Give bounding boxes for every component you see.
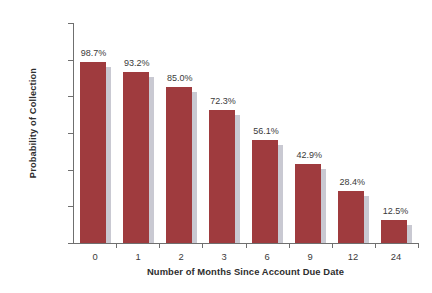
y-axis-tick <box>68 96 73 97</box>
y-axis-tick <box>68 206 73 207</box>
x-axis-tick <box>116 243 117 248</box>
bar-value-label: 28.4% <box>317 177 387 187</box>
bar-value-label: 56.1% <box>231 126 301 136</box>
plot-area: 0.0%20.0%40.0%60.0%80.0%100.0%120.0% 012… <box>73 23 418 243</box>
bar-value-label: 98.7% <box>59 48 129 58</box>
y-axis-tick <box>68 243 73 244</box>
x-axis-label: 9 <box>290 251 330 262</box>
x-axis-label: 24 <box>376 251 416 262</box>
x-axis-label: 12 <box>333 251 373 262</box>
bar-fill <box>80 62 106 243</box>
y-axis-title: Probability of Collection <box>28 28 38 218</box>
y-axis-tick <box>68 60 73 61</box>
x-axis-tick <box>202 243 203 248</box>
x-axis-label: 3 <box>204 251 244 262</box>
x-axis-tick <box>332 243 333 248</box>
bar <box>123 23 155 243</box>
x-axis-label: 1 <box>118 251 158 262</box>
x-axis-label: 6 <box>247 251 287 262</box>
x-axis-title: Number of Months Since Account Due Date <box>73 266 418 277</box>
y-axis-tick <box>68 23 73 24</box>
x-axis-label: 2 <box>161 251 201 262</box>
bar-fill <box>338 191 364 243</box>
x-axis-tick <box>246 243 247 248</box>
bar-value-label: 85.0% <box>145 73 215 83</box>
x-axis-tick <box>375 243 376 248</box>
bar-value-label: 12.5% <box>360 206 430 216</box>
x-axis-label: 0 <box>75 251 115 262</box>
bar-value-label: 72.3% <box>188 96 258 106</box>
y-axis-tick <box>68 133 73 134</box>
bar-fill <box>166 87 192 243</box>
bar-fill <box>123 72 149 243</box>
bar <box>295 23 327 243</box>
bar-fill <box>381 220 407 243</box>
bar-chart: Probability of Collection 0.0%20.0%40.0%… <box>0 0 432 293</box>
x-axis-tick <box>418 243 419 248</box>
x-axis-tick <box>159 243 160 248</box>
bar-value-label: 42.9% <box>274 150 344 160</box>
bar-value-label: 93.2% <box>102 58 172 68</box>
bar <box>166 23 198 243</box>
y-axis-tick <box>68 170 73 171</box>
x-axis-tick <box>289 243 290 248</box>
